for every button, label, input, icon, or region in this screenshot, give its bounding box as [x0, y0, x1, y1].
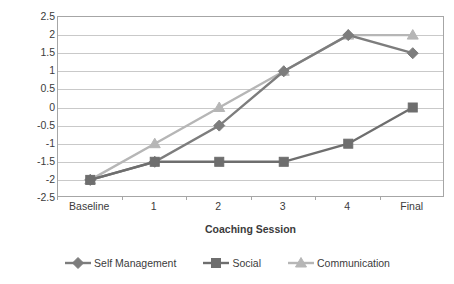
gas-score-line-chart: GAS Score 2.521.510.50-0.5-1-1.5-2-2.5 B… — [0, 0, 454, 284]
y-tick-label: 1.5 — [22, 47, 55, 57]
data-point-marker — [214, 102, 225, 112]
legend-item-label: Self Management — [94, 257, 176, 269]
legend-item-communication[interactable]: Communication — [287, 257, 390, 269]
data-point-marker — [149, 138, 160, 148]
y-tick-label: -1.5 — [22, 156, 55, 166]
y-tick-label: 0.5 — [22, 83, 55, 93]
chart-legend: Self ManagementSocialCommunication — [0, 253, 454, 273]
data-point-marker — [279, 157, 288, 166]
y-tick-label: 2.5 — [22, 11, 55, 21]
series-line — [90, 35, 413, 180]
series-social — [86, 103, 418, 184]
x-tick-mark — [380, 196, 381, 200]
plot-area — [57, 16, 444, 197]
x-tick-mark — [251, 196, 252, 200]
y-axis-tick-labels: 2.521.510.50-0.5-1-1.5-2-2.5 — [22, 16, 55, 197]
legend-marker-triangle-icon — [287, 257, 315, 269]
x-axis-tick-labels: Baseline1234Final — [57, 200, 444, 216]
x-tick-mark — [186, 196, 187, 200]
data-point-marker — [408, 103, 417, 112]
series-line — [90, 108, 413, 180]
x-axis-title: Coaching Session — [57, 223, 444, 235]
legend-item-label: Communication — [317, 257, 390, 269]
x-tick-label: Final — [372, 200, 452, 212]
y-tick-label: 2 — [22, 29, 55, 39]
y-tick-label: 1 — [22, 65, 55, 75]
x-tick-mark — [315, 196, 316, 200]
y-tick-label: 0 — [22, 102, 55, 112]
data-point-marker — [215, 157, 224, 166]
legend-marker-square-icon — [202, 257, 230, 269]
data-point-marker — [407, 48, 418, 59]
y-tick-label: -0.5 — [22, 120, 55, 130]
data-point-marker — [86, 175, 95, 184]
legend-marker-diamond-icon — [64, 257, 92, 269]
y-tick-label: -2 — [22, 174, 55, 184]
series-line — [90, 35, 413, 180]
data-point-marker — [344, 139, 353, 148]
x-tick-mark — [122, 196, 123, 200]
data-point-marker — [150, 157, 159, 166]
x-tick-mark — [57, 196, 58, 200]
legend-item-social[interactable]: Social — [202, 257, 261, 269]
plot-svg — [58, 17, 445, 198]
legend-item-label: Social — [232, 257, 261, 269]
legend-item-self-management[interactable]: Self Management — [64, 257, 176, 269]
y-tick-label: -1 — [22, 138, 55, 148]
